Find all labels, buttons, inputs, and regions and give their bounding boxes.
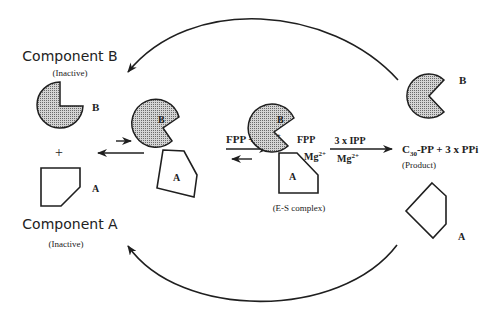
es-complex-caption: (E-S complex)	[273, 203, 326, 213]
es-complex-fpp-label: FPP	[297, 134, 315, 145]
released-a-label: A	[458, 231, 466, 242]
component-b-title: Component B	[22, 48, 117, 64]
enzyme-cycle-diagram: Component B (Inactive) B + A Component A…	[0, 0, 499, 311]
es-complex-b-label: B	[277, 114, 284, 125]
step2-bottom-label: Mg2+	[337, 152, 359, 164]
product-caption: (Product)	[402, 160, 436, 170]
component-a-title: Component A	[22, 216, 118, 232]
component-b-label: B	[92, 101, 100, 113]
top-cycle-arrow	[128, 19, 398, 80]
step2-top-label: 3 x IPP	[334, 135, 365, 146]
product-formula: C30-PP + 3 x PPi	[402, 143, 478, 158]
plus-sign: +	[55, 145, 63, 160]
component-b-pacman-shape	[37, 82, 83, 128]
released-a-shape	[406, 183, 446, 238]
released-b-label: B	[459, 74, 467, 86]
es-complex-a-label: A	[289, 171, 297, 182]
complex-b-pacman-shape	[132, 99, 179, 147]
complex-b-label: B	[158, 114, 165, 125]
bottom-cycle-arrow	[128, 245, 397, 301]
component-a-shape	[41, 168, 80, 206]
es-complex-b-pacman-shape	[248, 104, 294, 152]
released-b-pacman-shape	[407, 74, 444, 118]
component-a-status: (Inactive)	[49, 239, 84, 249]
complex-a-label: A	[173, 172, 181, 183]
component-b-status: (Inactive)	[53, 68, 88, 78]
component-a-label: A	[92, 183, 100, 194]
es-complex-mg-label: Mg2+	[304, 150, 326, 162]
